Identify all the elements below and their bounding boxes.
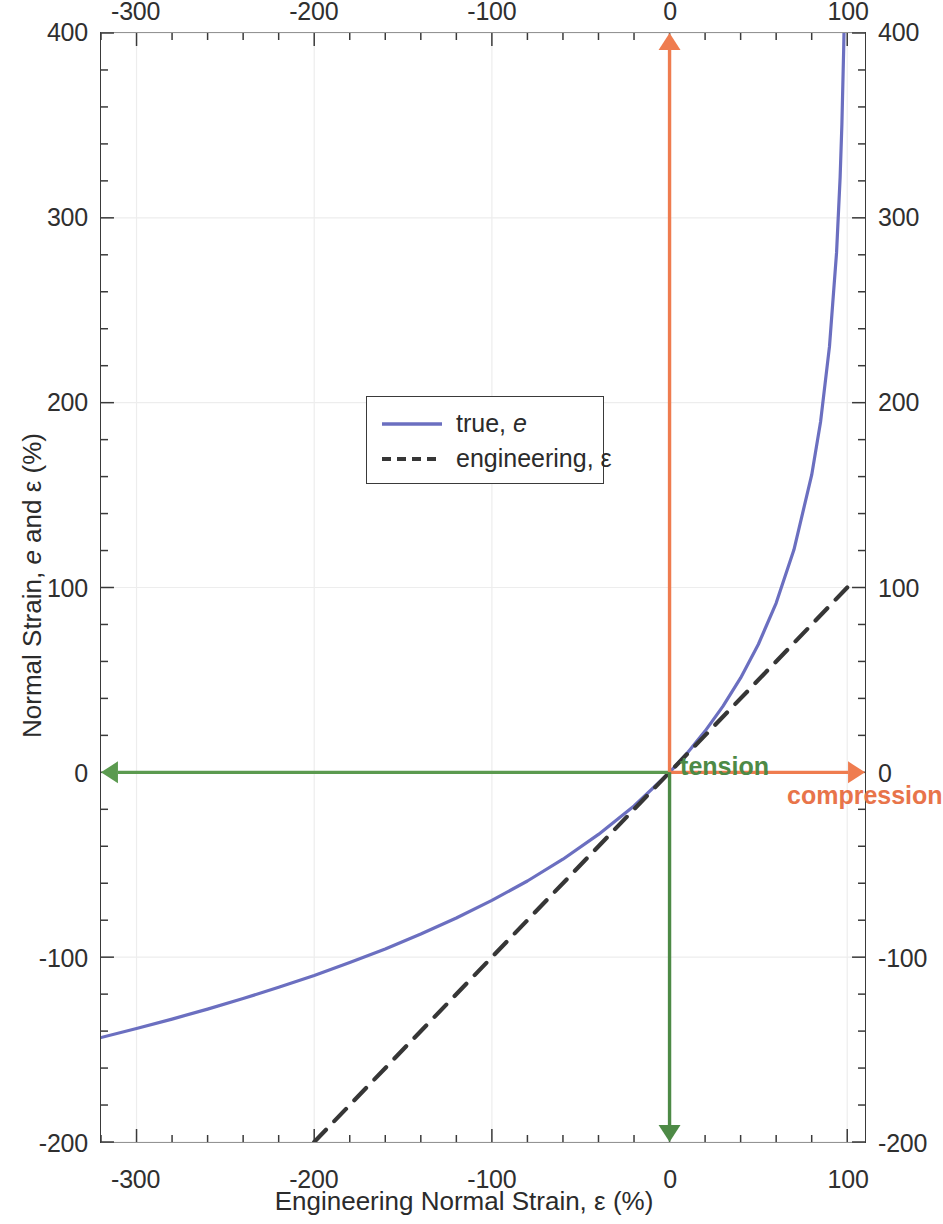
y-tick-label-left-0: 0 xyxy=(74,758,88,787)
x-tick-label-top-100: 100 xyxy=(828,0,869,26)
y-tick-label-left-200: 200 xyxy=(47,388,88,417)
y-tick-label-left--200: -200 xyxy=(39,1129,88,1158)
y-tick-label-right-300: 300 xyxy=(878,203,919,232)
legend-label-true: true, e xyxy=(456,409,527,438)
plot-area: true, e engineering, ε tension compressi… xyxy=(100,32,866,1143)
y-tick-label-right--100: -100 xyxy=(878,943,927,972)
annotation-compression: compression xyxy=(787,781,943,810)
y-tick-label-right--200: -200 xyxy=(878,1129,927,1158)
y-tick-label-right-0: 0 xyxy=(878,758,892,787)
legend-swatch-true-solid xyxy=(381,417,443,431)
y-tick-label-left-100: 100 xyxy=(47,573,88,602)
annotation-tension: tension xyxy=(680,752,769,781)
legend-item-engineering: engineering, ε xyxy=(367,441,603,476)
direction-arrows xyxy=(101,33,865,1142)
x-tick-label-top-0: 0 xyxy=(663,0,677,26)
legend-label-engineering: engineering, ε xyxy=(456,444,612,473)
x-axis-title: Engineering Normal Strain, ε (%) xyxy=(0,1186,928,1217)
legend-item-true: true, e xyxy=(367,406,603,441)
x-tick-label-top--100: -100 xyxy=(467,0,516,26)
legend-swatch-engineering-dashed xyxy=(381,452,443,466)
y-axis-title: Normal Strain, e and ε (%) xyxy=(17,286,48,886)
x-tick-label-top--300: -300 xyxy=(111,0,160,26)
legend: true, e engineering, ε xyxy=(366,396,604,484)
y-tick-label-right-400: 400 xyxy=(878,18,919,47)
y-tick-label-left-300: 300 xyxy=(47,203,88,232)
y-tick-label-right-200: 200 xyxy=(878,388,919,417)
y-tick-label-right-100: 100 xyxy=(878,573,919,602)
y-tick-label-left-400: 400 xyxy=(47,18,88,47)
x-tick-label-top--200: -200 xyxy=(289,0,338,26)
y-tick-label-left--100: -100 xyxy=(39,943,88,972)
